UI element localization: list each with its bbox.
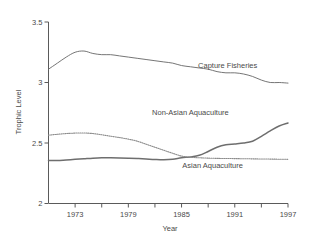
series-label: Capture Fisheries [198,61,257,70]
y-axis-title: Trophic Level [14,89,23,134]
series-inline-labels: Capture FisheriesNon-Asian AquacultureAs… [152,61,257,170]
series-line [49,123,289,161]
x-axis-title: Year [162,224,178,233]
x-tick-marks [75,204,288,208]
y-tick-label: 3 [38,78,42,87]
series-line [49,133,289,159]
x-tick-label: 1985 [173,210,190,219]
y-tick-label: 2 [38,199,42,208]
x-axis: 19731979198519911997 Year [49,204,297,234]
x-tick-label: 1979 [120,210,137,219]
x-tick-labels: 19731979198519911997 [67,210,297,219]
series-label: Non-Asian Aquaculture [152,108,229,117]
y-tick-label: 3.5 [32,18,42,27]
chart-figure: 22.533.5 Trophic Level 19731979198519911… [0,0,309,241]
y-axis: 22.533.5 Trophic Level [14,18,49,209]
x-tick-label: 1973 [67,210,84,219]
y-tick-labels: 22.533.5 [32,18,42,209]
y-tick-marks [45,22,49,204]
x-tick-label: 1997 [280,210,297,219]
x-tick-label: 1991 [226,210,243,219]
series-label: Asian Aquaculture [182,161,242,170]
y-tick-label: 2.5 [32,139,42,148]
trophic-level-line-chart: 22.533.5 Trophic Level 19731979198519911… [0,0,309,241]
